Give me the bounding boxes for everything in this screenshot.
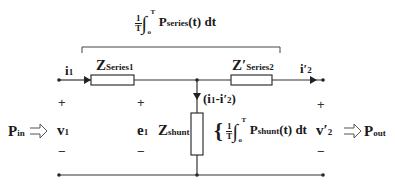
integral-icon: ∫To [142,13,152,33]
i1-arrow-icon [84,76,91,84]
terminal-top-right [321,78,325,82]
brace-icon: { [214,118,223,143]
series-power-label: 1 T ∫To Pseries(t) dt [135,13,216,33]
i1-label: i1 [65,64,73,77]
i2-arrow-icon [310,76,317,84]
v2-minus-sign: − [317,145,325,158]
e1-minus-sign: − [137,145,145,158]
shunt-current-arrow-icon [193,93,201,100]
p-out-arrow-icon [344,124,361,138]
z-series1-label: ZSeries1 [96,58,134,73]
v2-label: v′2 [316,123,332,138]
series-bracket [82,47,280,53]
z-series2-label: Z′Series2 [232,58,274,73]
e1-label: e1 [137,123,148,138]
z-series2-resistor [231,75,272,85]
shunt-current-label: (i1-i′2) [203,92,236,105]
z-shunt-resistor [191,113,203,155]
z-series1-resistor [91,75,134,85]
v1-plus-sign: + [58,96,66,109]
v2-plus-sign: + [317,98,325,111]
shunt-power-label: { 1 T ∫To Pshunt(t) dt [214,120,307,142]
integral-icon: ∫To [232,121,242,141]
p-in-label: Pin [8,124,25,139]
i2-label: i′2 [300,62,312,75]
p-in-arrow-icon [30,124,47,138]
terminal-top-left [57,78,61,82]
e1-plus-sign: + [137,96,145,109]
v1-label: v1 [57,123,69,138]
v1-minus-sign: − [58,145,66,158]
z-shunt-label: Zshunt [158,123,190,138]
p-out-label: Pout [364,124,386,139]
